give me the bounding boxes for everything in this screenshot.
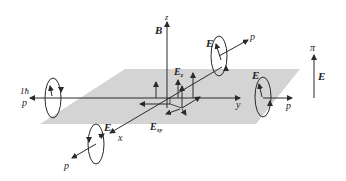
p-arrow-top: [219, 40, 248, 56]
polarization-diagram: z B y x E p E p 1ħ p E p Ez Exy π E: [0, 0, 346, 181]
e-arrow-left: [50, 86, 52, 96]
pi-label: π: [310, 42, 316, 53]
e-arrow-top: [216, 44, 221, 60]
hbar-label: 1ħ: [20, 86, 30, 96]
e-label-front: E: [103, 121, 111, 133]
e-label-top: E: [205, 37, 213, 49]
z-axis-label: z: [164, 13, 169, 22]
p-label-front: p: [63, 160, 69, 171]
pi-e-label: E: [317, 70, 325, 82]
p-arrow-front: [72, 144, 96, 158]
x-axis-label: x: [117, 132, 123, 143]
ez-label: Ez: [173, 66, 184, 78]
p-label-top: p: [249, 31, 255, 42]
y-axis-label: y: [235, 99, 241, 110]
p-label-left: p: [21, 97, 27, 108]
p-label-right: p: [285, 100, 291, 111]
b-field-label: B: [154, 24, 162, 36]
e-label-right: E: [251, 69, 259, 81]
